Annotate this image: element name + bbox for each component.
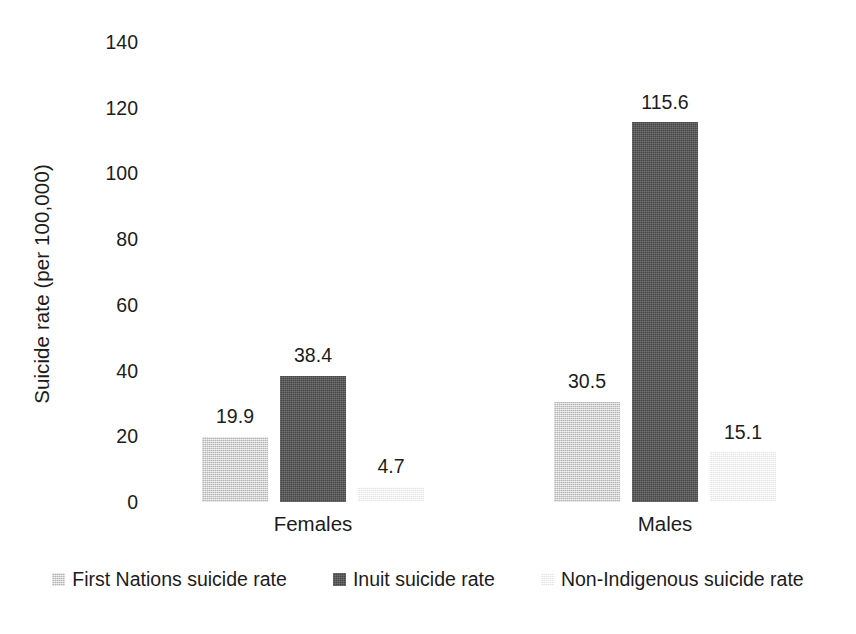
legend-label: Inuit suicide rate	[353, 568, 495, 591]
bar[interactable]	[358, 487, 424, 502]
bar[interactable]	[632, 122, 698, 502]
legend-item[interactable]: Inuit suicide rate	[333, 568, 495, 591]
bar-chart-figure: Suicide rate (per 100,000) 1401201008060…	[0, 0, 856, 634]
x-axis-category-label: Females	[193, 512, 433, 536]
y-axis-tick-label: 100	[72, 162, 138, 185]
bar-slot: 115.6	[632, 42, 698, 502]
y-axis-tick-label: 40	[72, 359, 138, 382]
bar-slot: 30.5	[554, 42, 620, 502]
bar-value-label: 30.5	[568, 372, 606, 392]
bar-value-label: 4.7	[377, 457, 404, 477]
y-axis-title: Suicide rate (per 100,000)	[30, 74, 54, 494]
legend-item[interactable]: Non-Indigenous suicide rate	[541, 568, 804, 591]
y-axis-tick-label: 80	[72, 228, 138, 251]
y-axis-tick-labels: 140120100806040200	[72, 42, 138, 502]
bar[interactable]	[280, 376, 346, 502]
bar[interactable]	[202, 437, 268, 502]
chart-legend: First Nations suicide rateInuit suicide …	[0, 568, 856, 591]
bar-value-label: 38.4	[294, 346, 332, 366]
bar-group: 19.938.44.7	[188, 42, 438, 502]
bar[interactable]	[710, 452, 776, 502]
legend-label: Non-Indigenous suicide rate	[561, 568, 804, 591]
bar-value-label: 19.9	[216, 407, 254, 427]
bar[interactable]	[554, 402, 620, 502]
y-axis-tick-label: 140	[72, 31, 138, 54]
bar-slot: 4.7	[358, 42, 424, 502]
legend-swatch-icon	[333, 573, 346, 586]
legend-item[interactable]: First Nations suicide rate	[52, 568, 287, 591]
plot-area: 19.938.44.730.5115.615.1	[150, 42, 840, 502]
x-axis-category-label: Males	[545, 512, 785, 536]
y-axis-tick-label: 0	[72, 491, 138, 514]
legend-swatch-icon	[541, 573, 554, 586]
y-axis-tick-label: 60	[72, 293, 138, 316]
bar-value-label: 15.1	[724, 423, 762, 443]
bar-slot: 19.9	[202, 42, 268, 502]
y-axis-tick-label: 20	[72, 425, 138, 448]
bar-value-label: 115.6	[641, 93, 688, 113]
legend-label: First Nations suicide rate	[72, 568, 287, 591]
bar-slot: 15.1	[710, 42, 776, 502]
bar-group: 30.5115.615.1	[540, 42, 790, 502]
legend-swatch-icon	[52, 573, 65, 586]
bar-slot: 38.4	[280, 42, 346, 502]
y-axis-tick-label: 120	[72, 96, 138, 119]
